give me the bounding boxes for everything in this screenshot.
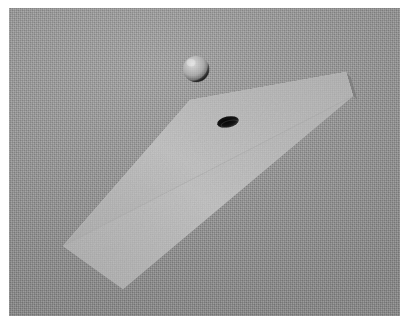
scene-frame	[0, 0, 409, 325]
scene-geometry	[9, 8, 400, 316]
rendered-image	[9, 8, 400, 316]
render-grain-overlay	[9, 8, 400, 316]
